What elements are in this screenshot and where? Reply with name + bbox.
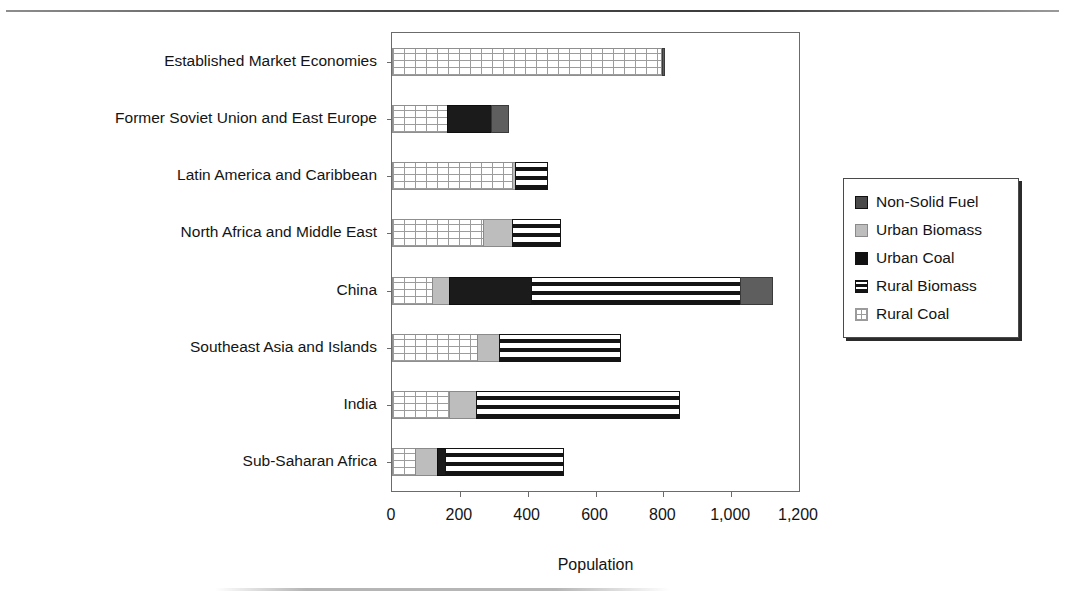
bar-row	[392, 448, 799, 476]
bar-segment-non-solid	[740, 277, 773, 305]
stacked-bar	[392, 391, 679, 419]
legend-swatch-urban-biomass	[855, 224, 868, 237]
chart-legend: Non-Solid FuelUrban BiomassUrban CoalRur…	[843, 178, 1019, 338]
bar-segment-rural-coal	[392, 334, 478, 362]
category-label: Sub-Saharan Africa	[243, 452, 377, 469]
bar-segment-urban-biomass	[415, 448, 439, 476]
bar-segment-urban-coal	[449, 277, 531, 305]
bar-segment-non-solid	[491, 105, 509, 133]
stacked-bar	[392, 448, 563, 476]
bar-segment-non-solid	[662, 48, 664, 76]
bar-segment-urban-biomass	[477, 334, 499, 362]
bar-segment-rural-coal	[392, 448, 416, 476]
legend-item-rural-coal[interactable]: Rural Coal	[855, 300, 1008, 328]
bar-row	[392, 48, 799, 76]
plot-area	[391, 32, 800, 492]
stacked-bar	[392, 162, 547, 190]
legend-label: Urban Biomass	[876, 221, 982, 239]
bar-segment-rural-coal	[392, 48, 662, 76]
stacked-bar-chart: Established Market EconomiesFormer Sovie…	[0, 0, 1067, 600]
bar-segment-rural-biomass	[476, 391, 680, 419]
category-label: Established Market Economies	[164, 52, 377, 69]
category-label: North Africa and Middle East	[181, 223, 377, 240]
legend-item-rural-biomass[interactable]: Rural Biomass	[855, 272, 1008, 300]
bar-segment-urban-biomass	[432, 277, 451, 305]
x-axis-tick	[528, 491, 529, 497]
stacked-bar	[392, 48, 664, 76]
x-axis-tick	[460, 491, 461, 497]
bar-row	[392, 162, 799, 190]
stacked-bar	[392, 277, 772, 305]
bars-container	[392, 33, 799, 491]
bar-row	[392, 391, 799, 419]
legend-item-non-solid[interactable]: Non-Solid Fuel	[855, 188, 1008, 216]
y-axis-tick	[387, 233, 392, 234]
x-axis-title: Population	[391, 556, 800, 574]
x-axis-tick-label: 200	[445, 506, 472, 524]
bar-segment-urban-coal	[447, 105, 492, 133]
legend-item-urban-biomass[interactable]: Urban Biomass	[855, 216, 1008, 244]
x-axis-tick	[663, 491, 664, 497]
x-axis-tick-label: 0	[387, 506, 396, 524]
bar-segment-rural-biomass	[515, 162, 547, 190]
bar-segment-rural-coal	[392, 391, 450, 419]
bar-row	[392, 219, 799, 247]
bar-segment-urban-biomass	[483, 219, 514, 247]
legend-label: Non-Solid Fuel	[876, 193, 979, 211]
bar-segment-rural-coal	[392, 219, 484, 247]
legend-item-urban-coal[interactable]: Urban Coal	[855, 244, 1008, 272]
legend-label: Rural Biomass	[876, 277, 977, 295]
legend-label: Urban Coal	[876, 249, 954, 267]
x-axis-tick-label: 400	[513, 506, 540, 524]
x-axis-tick-label: 1,000	[710, 506, 750, 524]
bar-row	[392, 334, 799, 362]
bar-row	[392, 277, 799, 305]
bar-segment-rural-biomass	[512, 219, 561, 247]
bar-row	[392, 105, 799, 133]
stacked-bar	[392, 105, 508, 133]
y-axis-tick	[387, 119, 392, 120]
category-label: Former Soviet Union and East Europe	[115, 109, 377, 126]
category-label: Latin America and Caribbean	[177, 166, 377, 183]
bar-segment-urban-biomass	[449, 391, 478, 419]
bar-segment-rural-coal	[392, 277, 433, 305]
stacked-bar	[392, 219, 560, 247]
x-axis-tick-label: 600	[581, 506, 608, 524]
legend-swatch-non-solid	[855, 196, 868, 209]
legend-label: Rural Coal	[876, 305, 949, 323]
y-axis-tick	[387, 291, 392, 292]
x-axis-tick-label: 800	[649, 506, 676, 524]
bar-segment-rural-coal	[392, 105, 448, 133]
y-axis-tick	[387, 176, 392, 177]
y-axis-tick	[387, 462, 392, 463]
y-axis-tick	[387, 405, 392, 406]
legend-swatch-rural-coal	[855, 308, 868, 321]
scan-artifact	[215, 588, 670, 591]
legend-swatch-urban-coal	[855, 252, 868, 265]
bar-segment-rural-biomass	[445, 448, 564, 476]
x-axis-tick-label: 1,200	[778, 506, 818, 524]
bar-segment-rural-biomass	[499, 334, 621, 362]
legend-swatch-rural-biomass	[855, 280, 868, 293]
stacked-bar	[392, 334, 620, 362]
category-label: China	[337, 281, 378, 298]
category-axis-labels: Established Market EconomiesFormer Sovie…	[40, 32, 385, 492]
x-axis-tick	[596, 491, 597, 497]
category-label: Southeast Asia and Islands	[190, 338, 377, 355]
bar-segment-rural-biomass	[531, 277, 741, 305]
category-label: India	[343, 395, 377, 412]
y-axis-tick	[387, 348, 392, 349]
bar-segment-rural-coal	[392, 162, 513, 190]
y-axis-tick	[387, 62, 392, 63]
x-axis-tick	[731, 491, 732, 497]
